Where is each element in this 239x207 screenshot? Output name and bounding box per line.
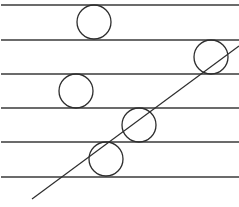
circle-5 [89,142,123,176]
circles [59,5,228,176]
circle-3 [59,74,93,108]
circle-1 [77,5,111,39]
horizontal-lines [1,5,239,177]
circle-4 [122,108,156,142]
diagram-canvas [0,0,239,207]
circle-2 [194,40,228,74]
transversal-line [32,46,239,199]
